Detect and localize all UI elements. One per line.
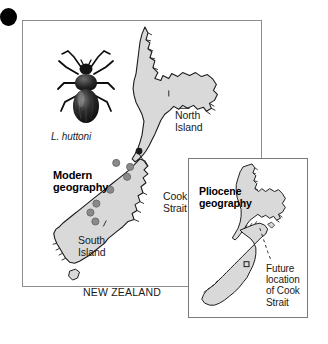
specimen-name-label: L. huttoni — [51, 131, 91, 142]
cook-strait-marker-icon — [136, 148, 143, 155]
stewart-island-shape — [69, 269, 80, 280]
locality-dot — [87, 209, 94, 216]
future-cook-strait-annotation: Future location of Cook Strait — [266, 263, 300, 308]
locality-dot — [92, 218, 99, 225]
pliocene-geography-panel: Pliocene geography Future location of Co… — [188, 158, 308, 318]
locality-dot — [113, 159, 120, 166]
modern-geography-title: Modern geography — [53, 169, 108, 194]
north-island-label: North Island — [175, 110, 202, 134]
north-island-shape — [132, 27, 217, 162]
figure-bullet-icon — [0, 8, 17, 26]
figure-root: L. huttoni Modern geography North Island… — [0, 0, 328, 344]
country-label: NEW ZEALAND — [83, 287, 161, 299]
pliocene-land-bridge-detail — [268, 222, 275, 228]
locality-dot — [93, 200, 100, 207]
pliocene-geography-title: Pliocene geography — [199, 186, 252, 210]
locality-dot — [124, 173, 131, 180]
south-island-label: South Island — [78, 235, 105, 259]
locality-dot — [127, 163, 134, 170]
beetle-illustration-icon — [56, 47, 116, 129]
cook-strait-label: Cook Strait — [163, 191, 187, 215]
